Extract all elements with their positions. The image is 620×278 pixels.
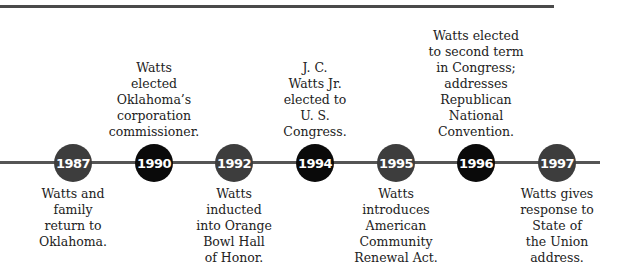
top-rule	[0, 5, 554, 8]
year-node-1994: 1994	[296, 144, 334, 182]
event-label-1994: J. C. Watts Jr. elected to U. S. Congres…	[260, 60, 370, 140]
year-node-1996: 1996	[457, 144, 495, 182]
event-label-1987: Watts and family return to Oklahoma.	[18, 186, 128, 250]
year-node-1995: 1995	[377, 144, 415, 182]
event-label-1996: Watts elected to second term in Congress…	[421, 28, 531, 140]
year-node-1992: 1992	[215, 144, 253, 182]
year-node-1987: 1987	[54, 144, 92, 182]
year-node-1997: 1997	[538, 144, 576, 182]
year-node-1990: 1990	[135, 144, 173, 182]
event-label-1995: Watts introduces American Community Rene…	[341, 186, 451, 266]
event-label-1992: Watts inducted into Orange Bowl Hall of …	[179, 186, 289, 266]
event-label-1990: Watts elected Oklahoma’s corporation com…	[99, 60, 209, 140]
event-label-1997: Watts gives response to State of the Uni…	[502, 186, 612, 266]
